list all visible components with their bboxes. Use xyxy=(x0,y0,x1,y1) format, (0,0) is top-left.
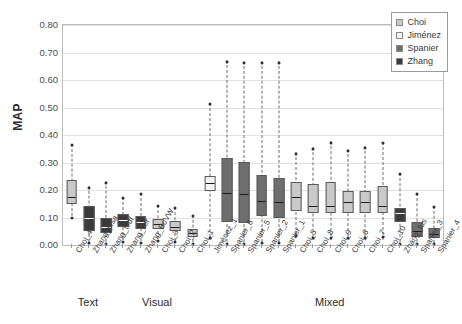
box-plot-spanier-6[interactable] xyxy=(218,25,235,245)
legend-item-spanier[interactable]: Spanier xyxy=(396,42,441,55)
box-plot-zhang-plsa[interactable] xyxy=(80,25,97,245)
whisker-cap-max xyxy=(381,142,384,145)
legend-label: Zhang xyxy=(407,57,433,66)
box xyxy=(394,208,405,222)
whisker-cap-max xyxy=(122,197,125,200)
x-axis-tick-mark xyxy=(140,244,141,248)
y-axis-tick-label: 0.70 xyxy=(22,46,58,57)
whisker-cap-max xyxy=(295,152,298,155)
median-line xyxy=(257,201,266,202)
y-axis-tick-label: 0.00 xyxy=(22,239,58,250)
box-plot-choi-1[interactable] xyxy=(184,25,201,245)
whisker-cap-max xyxy=(191,215,194,218)
x-axis-tick-mark xyxy=(71,244,72,248)
whisker-cap-max xyxy=(260,61,263,64)
box xyxy=(308,184,319,213)
y-axis-tick-label: 0.80 xyxy=(22,19,58,30)
y-axis-tick-label: 0.50 xyxy=(22,101,58,112)
x-axis-tick-mark xyxy=(122,244,123,248)
y-axis-tick-label: 0.40 xyxy=(22,129,58,140)
group-label-mixed: Mixed xyxy=(315,296,344,308)
median-line xyxy=(378,206,387,207)
x-axis-tick-mark xyxy=(226,244,227,248)
whisker-cap-max xyxy=(208,103,211,106)
box-plot-zhang-bovw[interactable] xyxy=(132,25,149,245)
whisker-cap-max xyxy=(87,186,90,189)
median-line xyxy=(223,193,232,194)
median-line xyxy=(309,206,318,207)
plot-area xyxy=(62,24,444,246)
legend-swatch-icon xyxy=(396,45,403,52)
x-axis-tick-mark xyxy=(330,244,331,248)
box-plot-spanier-5[interactable] xyxy=(236,25,253,245)
box xyxy=(256,175,267,216)
box xyxy=(204,176,215,191)
legend-swatch-icon xyxy=(396,32,403,39)
whisker-cap-max xyxy=(416,193,419,196)
box-plot-choi-4[interactable] xyxy=(63,25,80,245)
legend-item-choi[interactable]: Choi xyxy=(396,16,441,29)
box xyxy=(291,182,302,210)
x-axis-tick-mark xyxy=(105,244,106,248)
x-axis-tick-mark xyxy=(157,244,158,248)
whisker-cap-max xyxy=(243,61,246,64)
median-line xyxy=(292,197,301,198)
legend: ChoiJiménezSpanierZhang xyxy=(391,12,448,72)
legend-item-jim-nez[interactable]: Jiménez xyxy=(396,29,441,42)
legend-label: Jiménez xyxy=(407,31,441,40)
x-axis-tick-mark xyxy=(382,244,383,248)
whisker-cap-max xyxy=(329,141,332,144)
whisker-line xyxy=(209,103,210,237)
whisker-cap-max xyxy=(364,146,367,149)
box-plot-choi-9[interactable] xyxy=(322,25,339,245)
median-line xyxy=(326,206,335,207)
box-plot-spanier-1[interactable] xyxy=(270,25,287,245)
x-axis-tick-mark xyxy=(433,244,434,248)
legend-swatch-icon xyxy=(396,58,403,65)
whisker-cap-max xyxy=(174,207,177,210)
box xyxy=(239,162,250,223)
x-axis-tick-mark xyxy=(347,244,348,248)
y-axis-tick-label: 0.20 xyxy=(22,184,58,195)
y-axis-tick-label: 0.30 xyxy=(22,156,58,167)
box xyxy=(343,191,354,212)
whisker-cap-max xyxy=(70,144,73,147)
box-plot-zhang-iter[interactable] xyxy=(115,25,132,245)
box-plot-choi-5[interactable] xyxy=(288,25,305,245)
legend-swatch-icon xyxy=(396,19,403,26)
box-plot-jim-nez-1[interactable] xyxy=(201,25,218,245)
whisker-cap-max xyxy=(346,149,349,152)
box-plot-zhang-tfidf[interactable] xyxy=(98,25,115,245)
whisker-cap-min xyxy=(70,216,73,219)
x-axis-tick-mark xyxy=(192,244,193,248)
box-plot-spanier-2[interactable] xyxy=(253,25,270,245)
x-axis-tick-labels: Choi_4Zhang_plsaZhang_tfidfZhang_iterZha… xyxy=(62,248,444,294)
x-axis-tick-mark xyxy=(278,244,279,248)
x-axis-tick-mark xyxy=(399,244,400,248)
y-axis-tick-label: 0.60 xyxy=(22,74,58,85)
box-plot-choi-6[interactable] xyxy=(339,25,356,245)
median-line xyxy=(85,218,94,219)
x-axis-tick-mark xyxy=(295,244,296,248)
x-axis-tick-mark xyxy=(312,244,313,248)
box xyxy=(325,182,336,212)
box xyxy=(84,206,95,232)
median-line xyxy=(361,202,370,203)
median-line xyxy=(344,202,353,203)
box xyxy=(66,180,77,203)
box-plot-choi-7[interactable] xyxy=(357,25,374,245)
legend-label: Spanier xyxy=(407,44,438,53)
whisker-cap-max xyxy=(156,205,159,208)
x-axis-tick-mark xyxy=(209,244,210,248)
y-axis-tick-label: 0.10 xyxy=(22,211,58,222)
whisker-cap-max xyxy=(139,193,142,196)
box xyxy=(360,191,371,214)
y-axis-tick-labels: 0.800.700.600.500.400.300.200.100.00 xyxy=(22,0,58,324)
legend-item-zhang[interactable]: Zhang xyxy=(396,55,441,68)
box-plot-choi-10[interactable] xyxy=(374,25,391,245)
median-line xyxy=(240,194,249,195)
x-axis-tick-mark xyxy=(364,244,365,248)
box-plot-choi-8[interactable] xyxy=(305,25,322,245)
group-label-visual: Visual xyxy=(142,296,172,308)
